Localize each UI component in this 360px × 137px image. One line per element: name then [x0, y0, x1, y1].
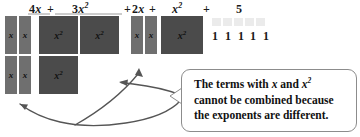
one-tile	[245, 18, 254, 26]
x2-tile: x2	[161, 16, 203, 54]
term-label-4x: 4x	[29, 2, 41, 17]
term-label-2x: 2x	[132, 2, 144, 17]
callout-var-x2-exponent: 2	[307, 76, 311, 85]
one-tile	[212, 18, 221, 26]
arrow-to-x2-tile-head	[119, 80, 128, 87]
arrow-to-x2-tile-path	[121, 83, 181, 96]
one-tile-label: 1	[212, 29, 218, 44]
x2-exponent: 2	[59, 28, 63, 36]
x2-tile: x2	[80, 16, 119, 54]
arrow-to-x-tiles-head	[20, 104, 28, 110]
arrow-to-x-tiles-path	[20, 100, 181, 125]
term-label-3x2: 3x2	[72, 2, 89, 17]
callout-line-3: the exponents are different.	[194, 108, 348, 124]
operator-plus-3: +	[149, 2, 156, 17]
x2-tile-label: x2	[54, 30, 63, 41]
operator-plus-4: +	[203, 2, 210, 17]
x-tile-label: x	[149, 30, 154, 40]
x-tile: x	[145, 16, 157, 54]
x2-exponent: 2	[100, 28, 104, 36]
operator-plus-2: +	[124, 2, 131, 17]
x2-exponent: 2	[59, 68, 63, 76]
term-label-x2: x2	[172, 2, 182, 17]
x-tile-label: x	[135, 30, 140, 40]
x-tile-label: x	[23, 70, 28, 80]
one-tile	[223, 18, 232, 26]
one-tile-label: 1	[250, 29, 256, 44]
callout-box: The terms with x and x2 cannot be combin…	[181, 69, 357, 132]
variable-x: x	[35, 2, 41, 16]
one-tile-label: 1	[238, 29, 244, 44]
x-tile-label: x	[9, 30, 14, 40]
x2-exponent: 2	[183, 28, 187, 36]
x2-tile-label: x2	[178, 30, 187, 41]
operator-plus-1: +	[47, 2, 54, 17]
x2-tile-label: x2	[54, 70, 63, 81]
one-tile-label: 1	[263, 29, 269, 44]
x2-tile-label: x2	[95, 30, 104, 41]
exponent-2: 2	[84, 1, 88, 10]
callout-line-1: The terms with x and x2	[194, 77, 348, 93]
x2-tile: x2	[39, 16, 78, 54]
one-tile-label: 1	[225, 29, 231, 44]
arrow-up-head	[135, 68, 143, 77]
x-tile: x	[131, 16, 143, 54]
callout-line-2: cannot be combined because	[194, 93, 348, 109]
x-tile-label: x	[9, 70, 14, 80]
x2-tile: x2	[39, 56, 78, 94]
x-tile: x	[19, 16, 31, 54]
term-label-5: 5	[236, 2, 242, 17]
x-tile: x	[19, 56, 31, 94]
exponent-2: 2	[178, 1, 182, 10]
variable-x: x	[138, 2, 144, 16]
x-tile-label: x	[23, 30, 28, 40]
arrow-up-path	[75, 74, 138, 125]
figure-canvas: 4x + 3x2 + 2x + x2 + 5 x x x x x2 x2 x2 …	[0, 0, 360, 137]
one-tile	[256, 18, 265, 26]
x-tile: x	[5, 16, 17, 54]
one-tile	[234, 18, 243, 26]
x-tile: x	[5, 56, 17, 94]
